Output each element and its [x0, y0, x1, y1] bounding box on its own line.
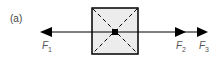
arrow-f2-icon [175, 27, 186, 37]
force-diagram [0, 0, 220, 58]
arrow-f3-icon [197, 27, 208, 37]
force-label-f3: F3 [199, 40, 209, 53]
arrow-f1-icon [40, 27, 52, 37]
force-label-f1: F1 [42, 40, 52, 53]
center-of-mass-dot [112, 29, 118, 35]
force-label-f2: F2 [176, 40, 186, 53]
